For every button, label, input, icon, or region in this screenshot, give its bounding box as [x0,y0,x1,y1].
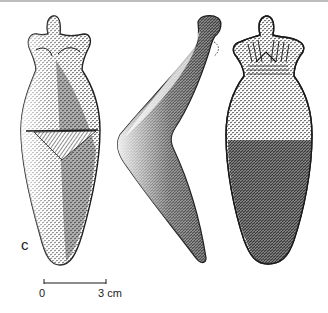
front-view-figurine [21,16,100,265]
scale-start-label: 0 [39,287,45,299]
scale-end-label: 3 cm [98,287,122,299]
figurine-drawing [0,0,328,313]
back-view-figurine [226,16,312,264]
side-view-figurine [118,16,221,263]
panel-label: c [21,236,29,253]
scale-bar [44,279,106,284]
